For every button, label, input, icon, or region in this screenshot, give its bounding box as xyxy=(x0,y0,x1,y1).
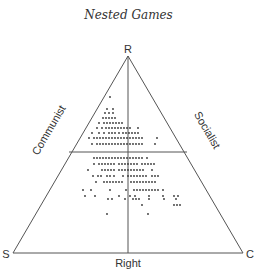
data-point xyxy=(108,143,110,145)
data-point xyxy=(130,175,132,177)
data-point xyxy=(126,157,128,159)
data-point xyxy=(104,163,106,165)
data-point xyxy=(115,122,117,124)
data-point xyxy=(138,143,140,145)
vertex-label-r: R xyxy=(124,43,132,55)
data-point xyxy=(132,198,134,200)
data-point xyxy=(121,169,123,171)
data-point xyxy=(118,195,120,197)
data-point xyxy=(96,157,98,159)
data-point xyxy=(145,189,147,191)
data-point xyxy=(107,163,109,165)
data-point xyxy=(114,143,116,145)
data-point xyxy=(101,127,103,129)
data-point xyxy=(114,157,116,159)
data-point xyxy=(138,198,140,200)
data-point xyxy=(179,204,181,206)
data-point xyxy=(96,127,98,129)
data-point xyxy=(105,117,107,119)
data-point xyxy=(117,143,119,145)
data-point xyxy=(117,157,119,159)
data-point xyxy=(151,169,153,171)
edge-label-right: Right xyxy=(115,257,141,269)
data-point xyxy=(175,198,177,200)
data-point xyxy=(162,195,164,197)
data-point xyxy=(132,157,134,159)
data-point xyxy=(102,117,104,119)
data-point xyxy=(104,169,106,171)
data-point xyxy=(130,181,132,183)
data-point xyxy=(98,163,100,165)
edge-label-communist: Communist xyxy=(29,103,67,157)
data-point xyxy=(90,189,92,191)
data-point xyxy=(138,137,140,139)
data-point xyxy=(145,181,147,183)
data-point xyxy=(126,137,128,139)
vertex-label-c: C xyxy=(246,248,254,260)
data-point xyxy=(136,181,138,183)
data-point xyxy=(118,122,120,124)
data-point xyxy=(129,195,131,197)
data-point xyxy=(88,137,90,139)
data-point xyxy=(134,195,136,197)
data-point xyxy=(126,143,128,145)
data-point xyxy=(130,169,132,171)
data-point xyxy=(110,169,112,171)
data-point xyxy=(107,169,109,171)
data-point xyxy=(99,157,101,159)
data-point xyxy=(105,137,107,139)
data-point xyxy=(136,189,138,191)
data-point xyxy=(137,127,139,129)
data-point xyxy=(154,181,156,183)
data-point xyxy=(133,163,135,165)
data-point xyxy=(82,189,84,191)
data-point xyxy=(141,163,143,165)
data-point xyxy=(115,181,117,183)
data-point xyxy=(108,112,110,114)
data-point xyxy=(141,204,143,206)
data-point xyxy=(102,143,104,145)
data-point xyxy=(136,163,138,165)
data-point xyxy=(148,195,150,197)
data-point xyxy=(96,143,98,145)
data-point xyxy=(131,132,133,134)
data-point xyxy=(94,195,96,197)
data-point xyxy=(153,163,155,165)
data-point xyxy=(106,122,108,124)
data-point xyxy=(102,137,104,139)
data-point xyxy=(150,163,152,165)
data-point xyxy=(97,175,99,177)
data-point xyxy=(142,175,144,177)
data-point xyxy=(95,181,97,183)
data-point xyxy=(120,157,122,159)
data-point xyxy=(112,181,114,183)
data-point xyxy=(84,195,86,197)
data-point xyxy=(127,163,129,165)
data-point xyxy=(139,189,141,191)
data-point xyxy=(104,112,106,114)
data-point xyxy=(109,181,111,183)
data-point xyxy=(103,122,105,124)
data-point xyxy=(157,189,159,191)
data-point xyxy=(133,175,135,177)
data-point xyxy=(111,117,113,119)
data-point xyxy=(121,163,123,165)
data-point xyxy=(177,195,179,197)
data-point xyxy=(157,175,159,177)
data-point xyxy=(101,169,103,171)
data-point xyxy=(111,157,113,159)
data-point xyxy=(106,213,108,215)
data-point xyxy=(105,127,107,129)
data-point xyxy=(129,137,131,139)
data-point xyxy=(129,143,131,145)
data-point xyxy=(142,169,144,171)
data-point xyxy=(111,143,113,145)
data-point xyxy=(132,137,134,139)
data-point xyxy=(136,175,138,177)
data-point xyxy=(117,127,119,129)
data-point xyxy=(103,181,105,183)
data-point xyxy=(114,132,116,134)
data-point xyxy=(151,175,153,177)
data-point xyxy=(148,189,150,191)
data-point xyxy=(118,163,120,165)
